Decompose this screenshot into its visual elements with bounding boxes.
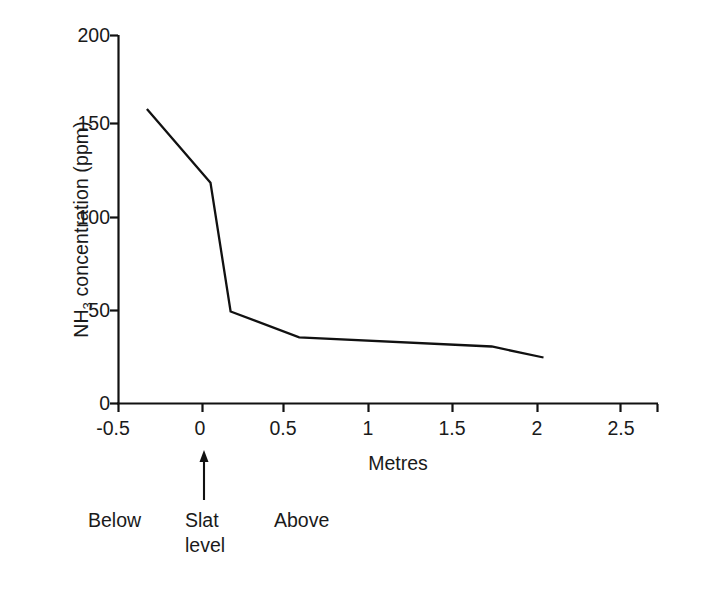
x-tick-marks [119,404,658,412]
y-tick-marks [110,36,118,404]
data-series-line [147,109,544,357]
chart-figure: NH3 concentration (ppm) 200 150 100 50 0… [0,0,702,596]
slat-level-arrow [200,450,209,500]
plot-area [0,0,702,596]
